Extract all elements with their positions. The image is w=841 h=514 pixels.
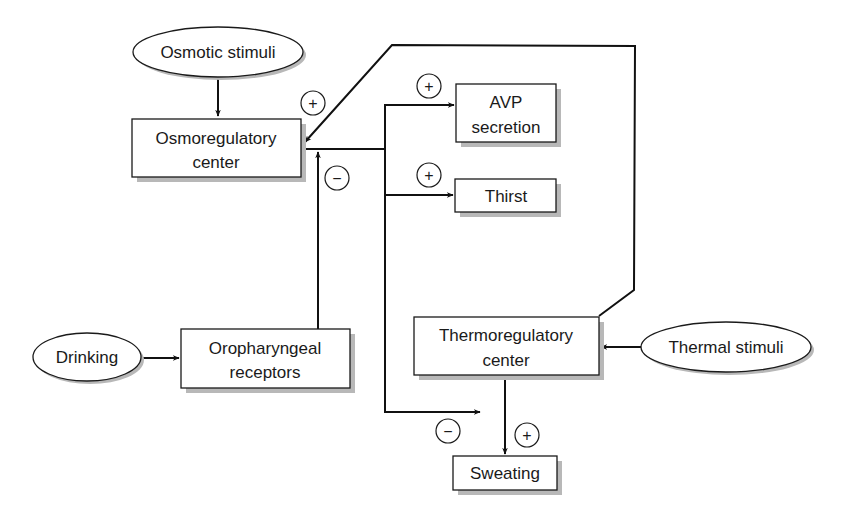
plus-sign-icon: +: [424, 167, 433, 184]
node-label-line-1: AVP: [490, 93, 523, 112]
sign-plus-thermo-to-osmo: +: [301, 91, 325, 115]
node-label-line-2: center: [482, 351, 530, 370]
minus-sign-icon: −: [443, 423, 452, 440]
minus-sign-icon: −: [332, 170, 341, 187]
node-label-line-1: Oropharyngeal: [209, 339, 321, 358]
node-sweating: Sweating: [453, 456, 562, 495]
node-label: Drinking: [56, 348, 118, 367]
node-label: Thermal stimuli: [668, 338, 783, 357]
plus-sign-icon: +: [308, 95, 317, 112]
node-label-line-2: receptors: [230, 363, 301, 382]
node-osmotic-stimuli: Osmotic stimuli: [133, 27, 306, 80]
node-drinking: Drinking: [33, 333, 144, 384]
sign-plus-thirst: +: [417, 163, 441, 187]
node-oropharyngeal-receptors: Oropharyngeal receptors: [181, 329, 355, 393]
node-avp-secretion: AVP secretion: [456, 84, 561, 147]
plus-sign-icon: +: [424, 78, 433, 95]
sign-minus-oropharyngeal-to-osmo: −: [325, 166, 349, 190]
node-thirst: Thirst: [455, 179, 561, 217]
feedback-diagram: Osmotic stimuli Osmoregulatory center AV…: [0, 0, 841, 514]
node-label: Osmotic stimuli: [160, 43, 275, 62]
node-osmoregulatory-center: Osmoregulatory center: [132, 119, 306, 182]
node-thermal-stimuli: Thermal stimuli: [641, 322, 814, 375]
node-label-line-2: secretion: [472, 118, 541, 137]
plus-sign-icon: +: [522, 427, 531, 444]
node-thermoregulatory-center: Thermoregulatory center: [414, 317, 604, 380]
node-label-line-2: center: [192, 153, 240, 172]
sign-plus-avp: +: [417, 74, 441, 98]
sign-plus-thermo-to-sweating: +: [515, 423, 539, 447]
node-label: Sweating: [470, 464, 540, 483]
node-label-line-1: Osmoregulatory: [156, 129, 277, 148]
node-label: Thirst: [485, 187, 528, 206]
sign-minus-osmo-to-sweating: −: [436, 419, 460, 443]
node-label-line-1: Thermoregulatory: [439, 326, 574, 345]
